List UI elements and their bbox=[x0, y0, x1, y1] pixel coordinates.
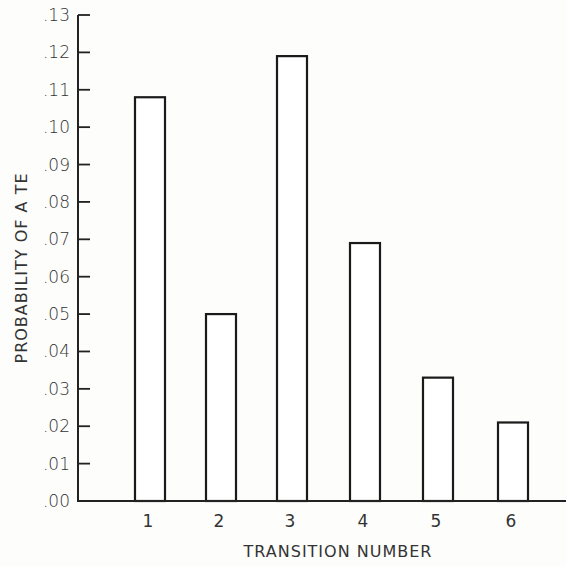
y-axis-title: PROBABILITY OF A TE bbox=[12, 172, 31, 363]
bar-transition-6 bbox=[498, 422, 528, 501]
x-tick-label: 5 bbox=[431, 511, 442, 531]
y-tick-label: .04 bbox=[43, 341, 70, 361]
y-tick-label: .03 bbox=[43, 379, 70, 399]
y-tick-label: .07 bbox=[43, 229, 70, 249]
y-tick-label: .08 bbox=[43, 192, 70, 212]
y-tick-label: .13 bbox=[43, 5, 70, 25]
bar-transition-5 bbox=[423, 378, 453, 501]
bar-transition-4 bbox=[350, 243, 380, 501]
x-axis-tick-labels: 123456 bbox=[143, 511, 517, 531]
y-tick-label: .02 bbox=[43, 416, 70, 436]
x-tick-label: 2 bbox=[214, 511, 225, 531]
y-tick-label: .11 bbox=[43, 80, 70, 100]
y-tick-label: .06 bbox=[43, 267, 70, 287]
x-tick-label: 3 bbox=[285, 511, 296, 531]
y-tick-label: .01 bbox=[43, 454, 70, 474]
y-tick-label: .05 bbox=[43, 304, 70, 324]
bar-chart: .00.01.02.03.04.05.06.07.08.09.10.11.12.… bbox=[0, 0, 567, 567]
x-tick-label: 6 bbox=[506, 511, 517, 531]
y-tick-label: .09 bbox=[43, 155, 70, 175]
bar-transition-2 bbox=[206, 314, 236, 501]
y-axis-ticks: .00.01.02.03.04.05.06.07.08.09.10.11.12.… bbox=[43, 5, 90, 511]
bars bbox=[135, 56, 528, 501]
x-axis-title: TRANSITION NUMBER bbox=[243, 542, 433, 561]
bar-transition-1 bbox=[135, 97, 165, 501]
y-tick-label: .00 bbox=[43, 491, 70, 511]
y-tick-label: .10 bbox=[43, 117, 70, 137]
y-tick-label: .12 bbox=[43, 42, 70, 62]
x-tick-label: 1 bbox=[143, 511, 154, 531]
x-tick-label: 4 bbox=[358, 511, 369, 531]
bar-transition-3 bbox=[277, 56, 307, 501]
